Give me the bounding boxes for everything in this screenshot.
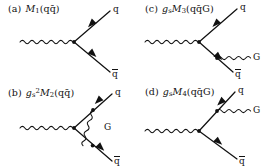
quark-label-c: q xyxy=(240,3,246,12)
current-wavy-line-c xyxy=(145,40,198,43)
quark-leg-a xyxy=(74,11,110,42)
current-wavy-line-d xyxy=(145,129,198,132)
antiquark-arrowhead-b xyxy=(95,142,104,151)
gluon-loop-upper-vertex-b xyxy=(91,108,95,112)
quark-arrowhead-d xyxy=(217,97,226,106)
vertex-dot-a xyxy=(72,40,76,44)
antiquark-arrowhead-a xyxy=(88,49,97,57)
antiquark-arrowhead-d xyxy=(213,137,222,145)
panel-c: (c)gsM3(qq̄G) q q G xyxy=(137,0,273,83)
gluon-emission-vertex-d xyxy=(215,109,219,113)
quark-arrowhead-c xyxy=(212,18,221,27)
vertex-dot-b xyxy=(72,126,76,130)
antiquark-label-d: q xyxy=(239,157,245,166)
panel-b: (b)gs2M2(qq̄) q q G xyxy=(0,83,136,166)
antiquark-label-a: q xyxy=(112,70,118,79)
gluon-label-d: G xyxy=(253,106,260,115)
antiquark-leg-d xyxy=(199,131,237,159)
quark-label-b: q xyxy=(115,88,121,97)
gluon-emission-vertex-c xyxy=(215,56,219,60)
panel-d-canvas xyxy=(137,83,273,166)
current-wavy-line-a xyxy=(20,40,73,43)
current-wavy-line-b xyxy=(20,126,73,129)
gluon-line-c xyxy=(217,56,251,59)
antiquark-label-c: q xyxy=(235,70,241,79)
gluon-loop-lower-vertex-b xyxy=(91,144,95,148)
gluon-line-d xyxy=(217,109,251,112)
quark-label-a: q xyxy=(113,5,119,14)
quark-leg-c xyxy=(199,9,237,42)
panel-c-canvas xyxy=(137,0,273,83)
vertex-dot-d xyxy=(197,129,201,133)
panel-a: (a)M1(qq̄) q q xyxy=(0,0,136,83)
quark-label-d: q xyxy=(238,86,244,95)
vertex-dot-c xyxy=(197,40,201,44)
antiquark-leg-a xyxy=(74,42,110,72)
panel-d: (d)gsM4(qq̄G) q q G xyxy=(137,83,273,166)
gluon-label-c: G xyxy=(253,53,260,62)
antiquark-label-b: q xyxy=(114,157,120,166)
gluon-label-b: G xyxy=(104,123,111,132)
feynman-diagram-figure: (a)M1(qq̄) q q (b)gs2M2(qq̄) xyxy=(0,0,273,166)
